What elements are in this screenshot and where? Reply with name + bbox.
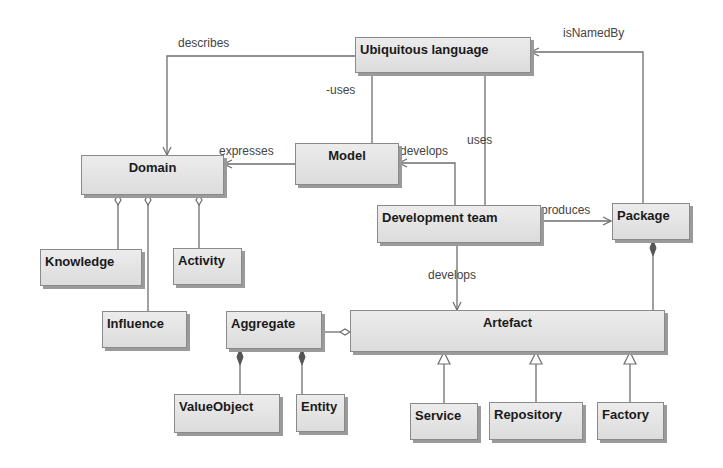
label-expresses: expresses	[219, 144, 274, 158]
label-develops-artefact: develops	[428, 268, 476, 282]
uml-diagram: describes -uses isNamedBy expresses deve…	[0, 0, 723, 468]
edge-develops-model	[399, 163, 455, 205]
aggregation-diamond-knowledge	[115, 195, 121, 205]
class-name: Package	[617, 208, 670, 223]
class-development-team[interactable]: Development team	[377, 205, 541, 243]
class-name: Model	[328, 148, 366, 163]
label-isnamedby: isNamedBy	[563, 26, 624, 40]
class-aggregate[interactable]: Aggregate	[226, 311, 322, 349]
class-name: Aggregate	[231, 316, 295, 331]
label-minus-uses: -uses	[326, 83, 355, 97]
edge-describes	[167, 56, 355, 155]
class-name: Ubiquitous language	[360, 42, 489, 57]
class-package[interactable]: Package	[612, 203, 690, 240]
class-entity[interactable]: Entity	[296, 394, 345, 432]
class-valueobject[interactable]: ValueObject	[174, 394, 280, 433]
class-influence[interactable]: Influence	[102, 311, 187, 348]
aggregation-diamond-influence	[145, 195, 151, 205]
class-ubiquitous-language[interactable]: Ubiquitous language	[355, 37, 531, 73]
label-uses: uses	[467, 133, 492, 147]
class-name: Entity	[301, 399, 337, 414]
class-artefact[interactable]: Artefact	[350, 310, 665, 352]
class-name: Influence	[107, 316, 164, 331]
class-factory[interactable]: Factory	[597, 402, 664, 440]
generalization-triangle-factory	[624, 352, 636, 364]
class-name: Knowledge	[45, 254, 114, 269]
class-domain[interactable]: Domain	[81, 155, 224, 195]
class-activity[interactable]: Activity	[173, 248, 242, 285]
aggregation-diamond-activity	[196, 195, 202, 205]
composition-diamond-valueobject	[237, 349, 243, 365]
class-name: Domain	[129, 160, 177, 175]
generalization-triangle-service	[438, 352, 450, 364]
class-knowledge[interactable]: Knowledge	[40, 249, 142, 286]
label-produces: produces	[541, 203, 590, 217]
label-describes: describes	[178, 36, 229, 50]
class-name: Artefact	[483, 315, 532, 330]
class-name: Factory	[602, 407, 649, 422]
composition-diamond-entity	[299, 349, 305, 365]
class-name: Repository	[494, 407, 562, 422]
class-service[interactable]: Service	[410, 403, 478, 440]
class-name: Development team	[382, 210, 498, 225]
edge-isnamedby	[531, 52, 643, 203]
aggregation-diamond-aggregate	[340, 329, 350, 335]
class-model[interactable]: Model	[295, 143, 399, 185]
generalization-triangle-repository	[530, 352, 542, 364]
class-repository[interactable]: Repository	[489, 402, 583, 440]
class-name: ValueObject	[179, 399, 253, 414]
class-name: Service	[415, 408, 461, 423]
label-develops-model: develops	[400, 144, 448, 158]
class-name: Activity	[178, 253, 225, 268]
composition-diamond-package	[650, 240, 656, 256]
